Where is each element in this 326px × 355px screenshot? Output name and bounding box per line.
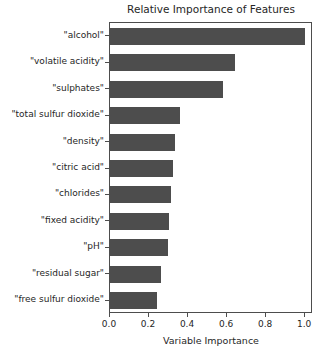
bar-fill (110, 292, 157, 309)
y-axis-tick-mark (105, 220, 109, 221)
x-axis-tick-mark (226, 313, 227, 317)
y-axis-tick-label: "density" (63, 136, 104, 147)
y-axis-tick-label: "volatile acidity" (30, 56, 104, 67)
y-axis-tick-mark (105, 273, 109, 274)
bar (110, 186, 171, 203)
chart-figure: Relative Importance of Features "alcohol… (0, 0, 326, 355)
bar-fill (110, 28, 305, 45)
bar-fill (110, 81, 223, 98)
y-axis-tick-label: "residual sugar" (32, 268, 104, 279)
y-axis-tick-mark (105, 62, 109, 63)
y-axis-tick-mark (105, 115, 109, 116)
bar (110, 28, 305, 45)
y-axis-tick-label: "total sulfur dioxide" (11, 109, 104, 120)
y-axis-tick-mark (105, 300, 109, 301)
x-axis-tick-label: 0.0 (89, 318, 129, 330)
bar (110, 107, 180, 124)
y-axis-tick-mark (105, 141, 109, 142)
y-axis-tick-label: "citric acid" (52, 162, 104, 173)
x-axis-tick-mark (187, 313, 188, 317)
x-axis-tick-mark (109, 313, 110, 317)
x-axis-tick-label: 0.2 (128, 318, 168, 330)
bar-fill (110, 160, 173, 177)
bar-fill (110, 186, 171, 203)
y-axis-tick-mark (105, 247, 109, 248)
bar (110, 134, 175, 151)
bar (110, 213, 169, 230)
x-axis-tick-mark (304, 313, 305, 317)
chart-title: Relative Importance of Features (109, 2, 313, 16)
bar-fill (110, 54, 235, 71)
y-axis-tick-label: "sulphates" (52, 83, 104, 94)
bar-fill (110, 107, 180, 124)
x-axis-tick-mark (148, 313, 149, 317)
bar (110, 292, 157, 309)
x-axis-tick-mark (265, 313, 266, 317)
x-axis-tick-label: 0.4 (167, 318, 207, 330)
y-axis-tick-label: "alcohol" (64, 30, 104, 41)
bar (110, 239, 168, 256)
x-axis-tick-label: 0.8 (245, 318, 285, 330)
bar (110, 160, 173, 177)
bar (110, 266, 161, 283)
bar (110, 54, 235, 71)
y-axis-tick-mark (105, 168, 109, 169)
bar-fill (110, 134, 175, 151)
x-axis-label: Variable Importance (109, 334, 313, 347)
x-axis-tick-label: 0.6 (206, 318, 246, 330)
bar-fill (110, 266, 161, 283)
y-axis-tick-label: "free sulfur dioxide" (14, 294, 104, 305)
plot-area (109, 22, 312, 313)
bar-fill (110, 213, 169, 230)
bar-fill (110, 239, 168, 256)
y-axis-tick-mark (105, 88, 109, 89)
y-axis-tick-mark (105, 35, 109, 36)
y-axis-tick-label: "pH" (83, 241, 104, 252)
y-axis-tick-mark (105, 194, 109, 195)
y-axis-tick-label: "fixed acidity" (41, 215, 104, 226)
y-axis-tick-label: "chlorides" (55, 188, 104, 199)
bar (110, 81, 223, 98)
x-axis-tick-label: 1.0 (284, 318, 324, 330)
